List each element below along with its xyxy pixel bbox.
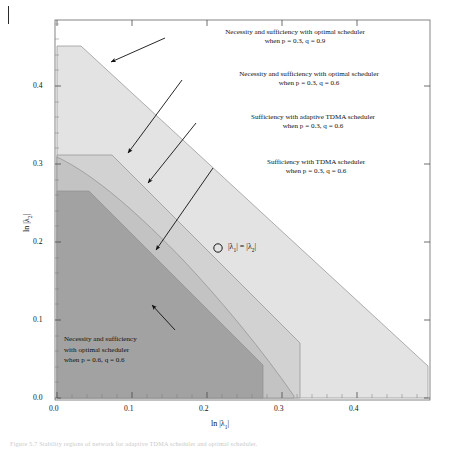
annotation-line: with optimal scheduler [64, 345, 214, 356]
x-tick-label: 0.0 [49, 404, 59, 413]
annotation-optimal-p03-q06: Necessity and sufficiency with optimal s… [184, 70, 434, 89]
annotation-line: Sufficiency with TDMA scheduler [216, 158, 416, 167]
annotation-line: Necessity and sufficiency [64, 334, 214, 345]
x-tick-label: 0.2 [199, 404, 209, 413]
equal-eigenvalue-label: |λ1| = |λ2| [228, 242, 256, 253]
y-tick-label: 0.3 [33, 159, 43, 168]
annotation-line: when p = 0.3, q = 0.6 [184, 79, 434, 88]
figure-caption: Figure 5.7 Stability regions of network … [10, 440, 446, 448]
y-axis-label: ln |λ2| [22, 214, 33, 232]
annotation-tdma-suff: Sufficiency with TDMA scheduler when p =… [216, 158, 416, 177]
y-tick-label: 0.4 [33, 81, 43, 90]
x-axis-label-prefix: ln |λ [211, 419, 225, 428]
annotation-line: Necessity and sufficiency with optimal s… [184, 70, 434, 79]
marker-label-part: | [255, 242, 257, 251]
x-tick-label: 0.1 [124, 404, 134, 413]
y-tick-label: 0.0 [33, 393, 43, 402]
annotation-line: when p = 0.3, q = 0.6 [216, 167, 416, 176]
annotation-adaptive-tdma: Sufficiency with adaptive TDMA scheduler… [198, 113, 428, 132]
x-tick-label: 0.4 [349, 404, 359, 413]
y-axis-label-prefix: ln |λ [22, 218, 31, 232]
x-axis-label: ln |λ1| [211, 419, 229, 430]
annotation-line: Necessity and sufficiency with optimal s… [170, 28, 420, 37]
y-tick-label: 0.1 [33, 315, 43, 324]
annotation-optimal-p03-q09: Necessity and sufficiency with optimal s… [170, 28, 420, 47]
marker-label-part: | = |λ [236, 242, 252, 251]
region-plot-figure [0, 0, 452, 456]
annotation-line: when p = 0.6, q = 0.6 [64, 355, 214, 366]
y-axis-label-suffix: | [22, 214, 31, 216]
annotation-optimal-p06-q06: Necessity and sufficiency with optimal s… [64, 334, 214, 366]
annotation-line: when p = 0.3, q = 0.6 [198, 122, 428, 131]
annotation-line: when p = 0.3, q = 0.9 [170, 37, 420, 46]
x-axis-label-suffix: | [227, 419, 229, 428]
x-tick-label: 0.3 [274, 404, 284, 413]
y-tick-label: 0.2 [33, 237, 43, 246]
annotation-line: Sufficiency with adaptive TDMA scheduler [198, 113, 428, 122]
figure-root: Necessity and sufficiency with optimal s… [0, 0, 452, 456]
